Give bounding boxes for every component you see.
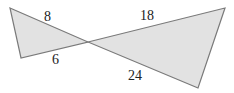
label-side-6: 6 [52, 52, 59, 67]
bowtie-diagram: 8 6 18 24 [0, 0, 234, 93]
label-side-24: 24 [128, 68, 142, 83]
label-side-8: 8 [44, 9, 51, 24]
large-triangle [88, 8, 225, 88]
label-side-18: 18 [140, 8, 154, 23]
